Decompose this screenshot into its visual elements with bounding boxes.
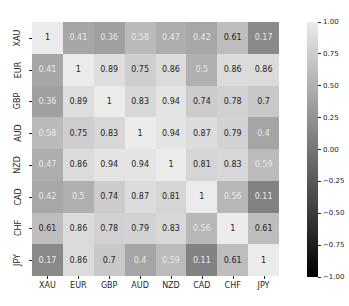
heatmap-cell: 0.42 bbox=[32, 181, 63, 213]
heatmap-cell: 0.58 bbox=[32, 117, 63, 149]
colorbar-ticks: 1.000.750.500.250.00−0.25−0.50−0.75−1.00 bbox=[318, 22, 349, 277]
heatmap-cell: 0.41 bbox=[32, 54, 63, 86]
heatmap-cell: 0.83 bbox=[125, 86, 156, 118]
heatmap-cell: 0.17 bbox=[32, 244, 63, 276]
x-tick-label: GBP bbox=[94, 276, 125, 296]
heatmap-cell: 0.79 bbox=[125, 213, 156, 245]
heatmap-cell: 0.47 bbox=[156, 22, 187, 54]
heatmap-cell: 0.56 bbox=[186, 213, 217, 245]
y-tick-label: NZD bbox=[0, 149, 32, 181]
heatmap-cell: 0.56 bbox=[217, 181, 248, 213]
heatmap-cell: 0.4 bbox=[125, 244, 156, 276]
heatmap-cell: 0.94 bbox=[156, 86, 187, 118]
heatmap-cell: 0.86 bbox=[217, 54, 248, 86]
colorbar-tick-label: 0.75 bbox=[318, 50, 339, 58]
heatmap-cell: 0.17 bbox=[248, 22, 279, 54]
heatmap-cell: 0.75 bbox=[125, 54, 156, 86]
x-axis-labels: XAUEURGBPAUDNZDCADCHFJPY bbox=[32, 276, 279, 296]
y-tick-label: EUR bbox=[0, 54, 32, 86]
heatmap-grid: 10.410.360.580.470.420.610.170.4110.890.… bbox=[32, 22, 279, 276]
heatmap-cell: 0.86 bbox=[63, 149, 94, 181]
x-tick-label: AUD bbox=[125, 276, 156, 296]
heatmap-cell: 0.79 bbox=[217, 117, 248, 149]
heatmap-cell: 0.47 bbox=[32, 149, 63, 181]
colorbar bbox=[307, 22, 318, 277]
heatmap-cell: 0.94 bbox=[125, 149, 156, 181]
heatmap-cell: 0.83 bbox=[94, 117, 125, 149]
heatmap-cell: 0.86 bbox=[156, 54, 187, 86]
heatmap-cell: 0.89 bbox=[63, 86, 94, 118]
heatmap-cell: 0.75 bbox=[63, 117, 94, 149]
heatmap-cell: 0.11 bbox=[248, 181, 279, 213]
heatmap-cell: 0.5 bbox=[186, 54, 217, 86]
heatmap-cell: 0.36 bbox=[94, 22, 125, 54]
heatmap-cell: 0.78 bbox=[94, 213, 125, 245]
heatmap-cell: 0.59 bbox=[156, 244, 187, 276]
heatmap-cell: 0.36 bbox=[32, 86, 63, 118]
heatmap-cell: 0.81 bbox=[186, 149, 217, 181]
y-tick-label: GBP bbox=[0, 86, 32, 118]
heatmap-cell: 0.11 bbox=[186, 244, 217, 276]
heatmap-cell: 0.58 bbox=[125, 22, 156, 54]
colorbar-tick-label: −0.50 bbox=[318, 209, 344, 217]
heatmap-cell: 1 bbox=[63, 54, 94, 86]
heatmap-cell: 0.87 bbox=[186, 117, 217, 149]
x-tick-label: NZD bbox=[156, 276, 187, 296]
colorbar-tick-label: 0.50 bbox=[318, 82, 339, 90]
y-tick-label: XAU bbox=[0, 22, 32, 54]
heatmap-cell: 1 bbox=[186, 181, 217, 213]
colorbar-tick-label: 0.25 bbox=[318, 114, 339, 122]
heatmap-cell: 0.94 bbox=[156, 117, 187, 149]
heatmap-cell: 1 bbox=[32, 22, 63, 54]
heatmap-cell: 0.7 bbox=[248, 86, 279, 118]
heatmap-cell: 0.83 bbox=[217, 149, 248, 181]
heatmap-cell: 0.86 bbox=[248, 54, 279, 86]
heatmap-cell: 0.42 bbox=[186, 22, 217, 54]
y-tick-label: CHF bbox=[0, 213, 32, 245]
heatmap-cell: 1 bbox=[217, 213, 248, 245]
y-tick-label: JPY bbox=[0, 244, 32, 276]
heatmap-cell: 1 bbox=[156, 149, 187, 181]
heatmap-cell: 0.74 bbox=[186, 86, 217, 118]
x-tick-label: XAU bbox=[32, 276, 63, 296]
colorbar-tick-label: −1.00 bbox=[318, 273, 344, 281]
heatmap-cell: 0.78 bbox=[217, 86, 248, 118]
colorbar-tick-label: 0.00 bbox=[318, 146, 339, 154]
heatmap-cell: 1 bbox=[94, 86, 125, 118]
y-tick-label: AUD bbox=[0, 117, 32, 149]
heatmap-cell: 0.61 bbox=[32, 213, 63, 245]
heatmap-cell: 0.86 bbox=[63, 244, 94, 276]
heatmap-cell: 0.89 bbox=[94, 54, 125, 86]
heatmap-cell: 0.81 bbox=[156, 181, 187, 213]
heatmap-cell: 0.7 bbox=[94, 244, 125, 276]
heatmap-cell: 0.61 bbox=[217, 244, 248, 276]
colorbar-tick-label: −0.75 bbox=[318, 241, 344, 249]
x-tick-label: JPY bbox=[248, 276, 279, 296]
heatmap-cell: 0.5 bbox=[63, 181, 94, 213]
heatmap-cell: 0.86 bbox=[63, 213, 94, 245]
x-tick-label: CAD bbox=[186, 276, 217, 296]
heatmap-cell: 0.83 bbox=[156, 213, 187, 245]
heatmap-cell: 1 bbox=[248, 244, 279, 276]
heatmap-cell: 0.61 bbox=[217, 22, 248, 54]
heatmap-cell: 0.94 bbox=[94, 149, 125, 181]
x-tick-label: CHF bbox=[217, 276, 248, 296]
y-axis-labels: XAUEURGBPAUDNZDCADCHFJPY bbox=[0, 22, 32, 276]
heatmap-cell: 0.59 bbox=[248, 149, 279, 181]
heatmap-cell: 0.87 bbox=[125, 181, 156, 213]
heatmap-cell: 0.74 bbox=[94, 181, 125, 213]
heatmap-cell: 0.61 bbox=[248, 213, 279, 245]
colorbar-tick-label: 1.00 bbox=[318, 18, 339, 26]
heatmap-cell: 0.4 bbox=[248, 117, 279, 149]
heatmap-cell: 0.41 bbox=[63, 22, 94, 54]
x-tick-label: EUR bbox=[63, 276, 94, 296]
heatmap-cell: 1 bbox=[125, 117, 156, 149]
colorbar-tick-label: −0.25 bbox=[318, 177, 344, 185]
y-tick-label: CAD bbox=[0, 181, 32, 213]
